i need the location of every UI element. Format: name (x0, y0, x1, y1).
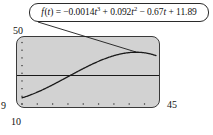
x-axis-max-label: 45 (167, 100, 177, 110)
y-axis-tick (21, 73, 22, 74)
y-axis-tick (21, 80, 22, 81)
x-axis-tick (113, 103, 114, 104)
equation-callout-box: f (t) = −0.0014t3 + 0.092t2 − 0.67t + 11… (29, 3, 209, 22)
x-axis-tick (144, 103, 145, 104)
plot-area (16, 36, 160, 108)
x-axis-tick (83, 103, 84, 104)
y-axis-tick (21, 65, 22, 66)
y-axis-tick (21, 88, 22, 89)
y-axis-tick (21, 103, 22, 104)
y-axis-tick (21, 50, 22, 51)
y-axis-tick (21, 57, 22, 58)
y-axis-tick (21, 96, 22, 97)
x-axis-tick (129, 103, 130, 104)
equation-label: f (t) = −0.0014t3 + 0.092t2 − 0.67t + 11… (41, 8, 197, 18)
x-axis-tick (67, 103, 68, 104)
y-axis-min-label: 9 (1, 101, 6, 111)
y-axis-max-label: 50 (13, 26, 23, 36)
x-axis-tick (37, 103, 38, 104)
cubic-model-figure: f (t) = −0.0014t3 + 0.092t2 − 0.67t + 11… (0, 0, 213, 135)
x-axis-tick (98, 103, 99, 104)
plot-canvas (17, 37, 160, 108)
y-axis-tick (21, 42, 22, 43)
y-axis-ticks (21, 42, 22, 105)
x-axis-tick (52, 103, 53, 104)
x-axis-min-label: 10 (11, 117, 21, 127)
x-axis-ticks (21, 103, 145, 104)
